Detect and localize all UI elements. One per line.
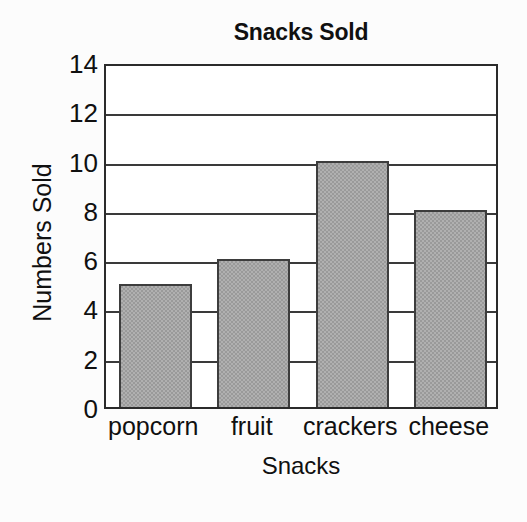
x-axis-tick-label: popcorn [104, 411, 203, 441]
x-axis-tick-label: crackers [301, 411, 400, 441]
bar-chart-figure: Snacks Sold Numbers Sold 14121086420 pop… [0, 0, 527, 522]
x-axis-tick-label: fruit [203, 411, 302, 441]
x-axis-tick-label: cheese [400, 411, 499, 441]
x-axis-title: Snacks [104, 452, 498, 480]
x-axis-tick-labels: popcornfruitcrackerscheese [0, 0, 527, 522]
